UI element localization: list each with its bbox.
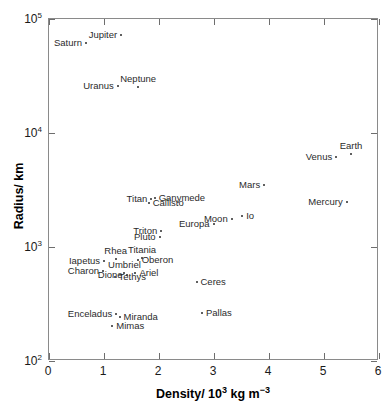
data-point-label: Tethys (119, 272, 146, 282)
x-tick-5 (324, 353, 325, 359)
y-tick-label-1e4: 104 (14, 125, 42, 140)
x-tick-2 (159, 19, 160, 25)
x-tick-label-6: 6 (375, 364, 382, 378)
x-tick-label-2: 2 (155, 364, 162, 378)
data-point-label: Titan (127, 194, 148, 204)
scatter-chart-figure: Density/ 103 kg m−3 Radius/ km 012345610… (0, 0, 391, 405)
data-point (231, 218, 233, 220)
x-tick-label-0: 0 (45, 364, 52, 378)
data-point-label: Mimas (116, 321, 144, 331)
x-tick-label-4: 4 (265, 364, 272, 378)
x-tick-label-5: 5 (320, 364, 327, 378)
x-tick-4 (269, 353, 270, 359)
data-point-label: Charon (68, 266, 99, 276)
y-tick-1e3 (49, 247, 55, 248)
y-tick-1e2 (49, 361, 55, 362)
y-tick-1e3 (371, 247, 377, 248)
data-point (85, 42, 87, 44)
data-point-label: Mercury (308, 197, 342, 207)
y-tick-1e5 (49, 19, 55, 20)
data-point-label: Mars (239, 180, 260, 190)
x-tick-3 (214, 19, 215, 25)
y-tick-label-1e3: 103 (14, 239, 42, 254)
data-point-label: Oberon (142, 255, 174, 265)
x-tick-4 (269, 19, 270, 25)
data-point-label: Rhea (104, 246, 127, 256)
x-tick-0 (49, 353, 50, 359)
x-tick-1 (104, 19, 105, 25)
data-point (201, 312, 203, 314)
data-point-label: Saturn (54, 38, 82, 48)
y-tick-1e2 (371, 361, 377, 362)
y-tick-label-1e2: 102 (14, 353, 42, 368)
data-point (117, 85, 119, 87)
data-point (196, 281, 198, 283)
data-point-label: Ceres (201, 277, 226, 287)
data-point (148, 202, 150, 204)
data-point-label: Jupiter (89, 30, 118, 40)
data-point-label: Callisto (153, 198, 184, 208)
data-point-label: Enceladus (68, 309, 112, 319)
data-point (120, 34, 122, 36)
data-point-label: Europa (179, 219, 210, 229)
x-tick-label-1: 1 (100, 364, 107, 378)
data-point-label: Earth (340, 141, 363, 151)
x-tick-6 (379, 19, 380, 25)
data-point-label: Uranus (83, 81, 114, 91)
data-point-label: Pluto (134, 232, 156, 242)
data-point-label: Venus (306, 152, 332, 162)
data-point-label: Io (246, 211, 254, 221)
x-tick-6 (379, 353, 380, 359)
x-axis-label: Density/ 103 kg m−3 (48, 385, 378, 401)
y-tick-1e4 (49, 133, 55, 134)
x-tick-3 (214, 353, 215, 359)
x-tick-2 (159, 353, 160, 359)
x-tick-5 (324, 19, 325, 25)
data-point (159, 236, 161, 238)
x-tick-1 (104, 353, 105, 359)
x-tick-label-3: 3 (210, 364, 217, 378)
y-tick-1e5 (371, 19, 377, 20)
data-point-label: Neptune (120, 74, 156, 84)
data-point (346, 201, 348, 203)
y-tick-label-1e5: 105 (14, 11, 42, 26)
y-tick-1e4 (371, 133, 377, 134)
data-point (213, 223, 215, 225)
data-point-label: Pallas (206, 308, 232, 318)
